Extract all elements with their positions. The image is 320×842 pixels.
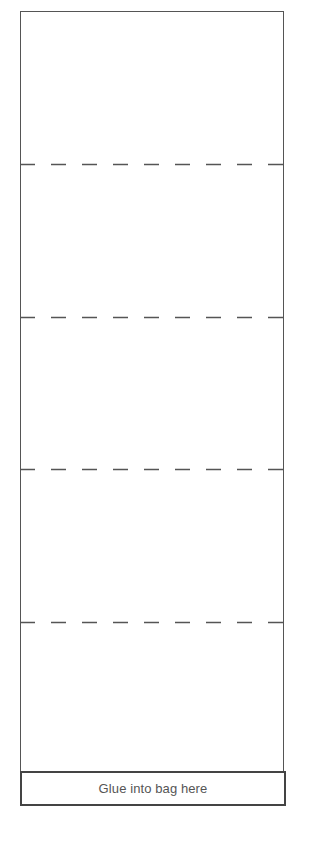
- glue-label: Glue into bag here: [99, 781, 208, 796]
- dashed-line-icon: [20, 316, 286, 319]
- template-outline: [20, 11, 284, 772]
- fold-line-4: [20, 621, 285, 622]
- dashed-line-icon: [20, 163, 286, 166]
- dashed-line-icon: [20, 468, 286, 471]
- fold-line-1: [20, 163, 285, 164]
- fold-line-3: [20, 468, 285, 469]
- glue-area: Glue into bag here: [20, 771, 286, 806]
- dashed-line-icon: [20, 621, 286, 624]
- fold-line-2: [20, 316, 285, 317]
